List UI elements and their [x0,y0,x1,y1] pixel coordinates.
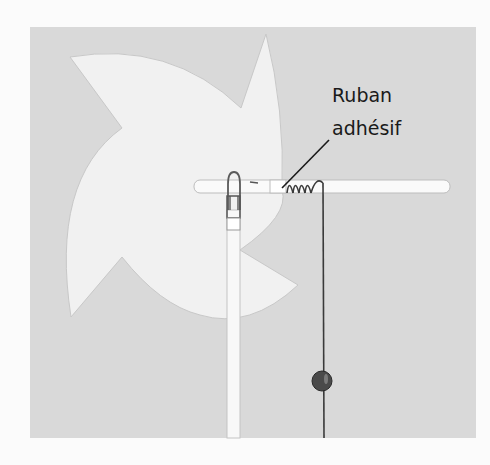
tape-label-line1: Ruban [332,86,392,105]
pole-tape [227,218,240,230]
pinwheel-paper-shape [66,34,298,319]
support-pole [227,210,240,438]
bead-weight [312,371,332,391]
pinwheel-drawing [0,0,490,465]
tape-label-line2: adhésif [332,119,401,138]
hanging-thread [323,183,324,438]
tape-mark [250,182,258,183]
pinwheel-illustration: Ruban adhésif [0,0,490,465]
